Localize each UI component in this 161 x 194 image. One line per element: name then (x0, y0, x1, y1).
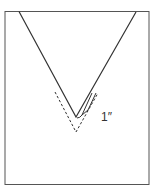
facing-double-line (77, 93, 96, 118)
measurement-label: 1″ (101, 111, 112, 123)
v-neck-diagram (0, 0, 161, 194)
neckline-cut-line (19, 12, 136, 118)
seam-allowance-dashed-line (55, 92, 98, 132)
garment-frame (5, 12, 149, 185)
